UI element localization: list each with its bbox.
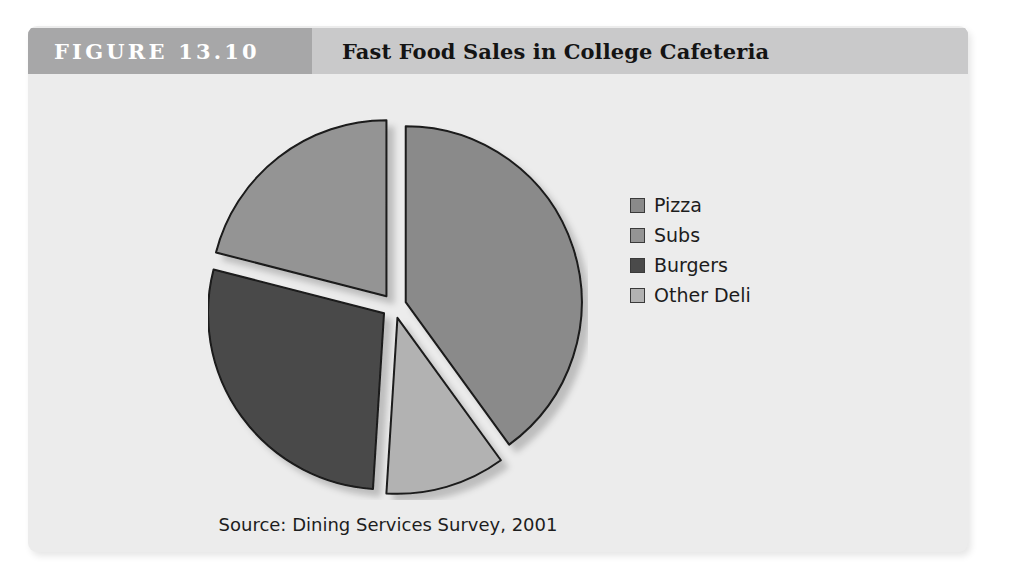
legend-item-burgers[interactable]: Burgers	[630, 250, 840, 280]
legend-item-pizza[interactable]: Pizza	[630, 190, 840, 220]
figure-header-band: FIGURE 13.10 Fast Food Sales in College …	[28, 28, 968, 74]
source-note: Source: Dining Services Survey, 2001	[28, 514, 748, 535]
legend-label-subs: Subs	[654, 226, 700, 245]
figure-title-block: Fast Food Sales in College Cafeteria	[312, 28, 968, 74]
figure-number-block: FIGURE 13.10	[28, 28, 312, 74]
legend-swatch-pizza	[630, 198, 645, 213]
figure-title: Fast Food Sales in College Cafeteria	[342, 39, 769, 64]
legend-swatch-subs	[630, 228, 645, 243]
figure-root: FIGURE 13.10 Fast Food Sales in College …	[0, 0, 1014, 588]
legend-item-other-deli[interactable]: Other Deli	[630, 280, 840, 310]
figure-number-label: FIGURE 13.10	[54, 39, 260, 64]
legend-swatch-burgers	[630, 258, 645, 273]
legend-label-other-deli: Other Deli	[654, 286, 751, 305]
pie-slice-subs[interactable]	[216, 120, 386, 296]
chart-body: Pizza Subs Burgers Other Deli Source: Di…	[28, 74, 968, 552]
pie-chart	[208, 110, 588, 500]
legend-swatch-other-deli	[630, 288, 645, 303]
figure-panel: FIGURE 13.10 Fast Food Sales in College …	[28, 26, 968, 552]
legend-label-pizza: Pizza	[654, 196, 702, 215]
chart-legend: Pizza Subs Burgers Other Deli	[630, 190, 840, 310]
pie-slice-burgers[interactable]	[208, 269, 384, 488]
legend-label-burgers: Burgers	[654, 256, 728, 275]
legend-item-subs[interactable]: Subs	[630, 220, 840, 250]
